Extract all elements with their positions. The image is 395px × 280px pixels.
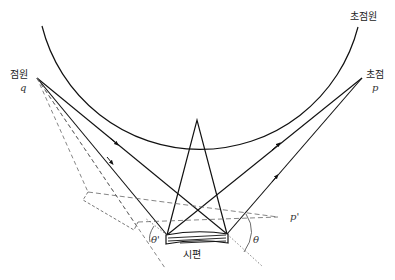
theta-label: θ [253, 235, 259, 245]
focus-point-label: 초점 [366, 70, 384, 80]
ray-q-to-right [37, 78, 227, 234]
ray-left-to-p [167, 78, 362, 235]
diagram-canvas [0, 0, 395, 280]
arrow-icon [272, 144, 279, 150]
focus-symbol: p [372, 83, 378, 93]
dashed-ray-q-2 [37, 78, 138, 228]
focusing-circle-label: 초점원 [350, 12, 377, 22]
focus-prime-label: p' [290, 212, 299, 222]
specimen-label: 시편 [183, 250, 201, 260]
theta-arc [244, 214, 252, 252]
arrow-icon [107, 157, 112, 163]
dashed-ray-q-3 [37, 78, 88, 192]
source-symbol: q [20, 83, 26, 93]
arrow-icon [272, 176, 277, 182]
arrow-icon [110, 138, 117, 144]
theta-prime-label: θ' [151, 235, 160, 245]
dotted-line-left [145, 218, 167, 235]
source-point-label: 점원 [10, 70, 28, 80]
incident-beam-triangle [167, 120, 227, 235]
dashed-ray-to-pprime-1 [88, 192, 278, 217]
diffraction-diagram: 초점원 점원 q 초점 p p' 시편 θ θ' [0, 0, 395, 280]
specimen [166, 232, 228, 244]
